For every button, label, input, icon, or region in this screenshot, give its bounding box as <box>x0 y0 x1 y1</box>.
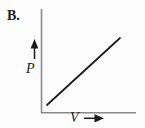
x-axis-label: V <box>70 111 79 125</box>
right-arrow-icon <box>84 114 104 122</box>
up-arrow-icon <box>31 39 39 59</box>
data-line-series-1 <box>47 38 120 105</box>
y-axis-label: P <box>26 62 35 76</box>
figure-panel: B. P V <box>0 0 145 128</box>
plot-area <box>0 0 145 128</box>
